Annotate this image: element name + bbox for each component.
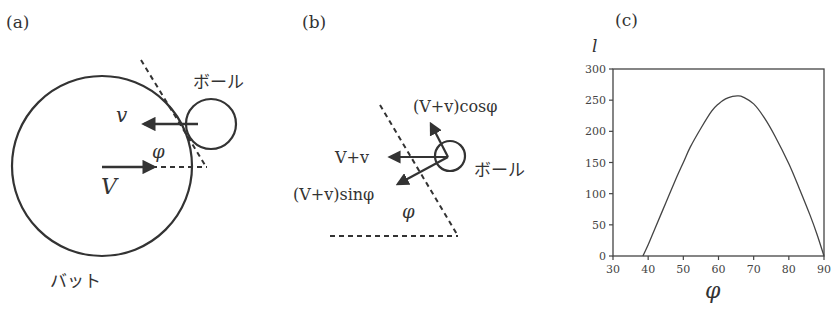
cos-arrow [431, 124, 448, 157]
sin-arrow [398, 157, 448, 184]
panel-b-label: (b) [302, 12, 326, 32]
x-axis-label: φ [705, 278, 721, 303]
panel-a: (a) v φ V ボール バット [6, 12, 244, 291]
panel-c-label: (c) [615, 10, 638, 30]
panel-b: (b) (V+v)cosφ V+v (V+v)sinφ φ ボール [293, 12, 525, 236]
y-ticks: 050100150200250300 [585, 63, 613, 263]
panel-c: (c) l φ 050100150200250300 3040506070809… [585, 10, 831, 303]
panel-a-label: (a) [6, 12, 29, 32]
sum-label: V+v [334, 148, 369, 167]
ball-label-a: ボール [193, 72, 244, 92]
sin-label: (V+v)sinφ [293, 185, 374, 204]
x-tick-label: 60 [712, 263, 726, 276]
y-tick-label: 300 [585, 63, 606, 76]
data-line-l [643, 96, 824, 256]
v-label: v [116, 103, 128, 127]
y-tick-label: 50 [592, 219, 606, 232]
phi-label-b: φ [402, 201, 415, 222]
V-label: V [101, 174, 119, 199]
x-tick-label: 70 [747, 263, 761, 276]
x-tick-label: 80 [782, 263, 796, 276]
y-tick-label: 100 [585, 188, 606, 201]
bat-label: バット [50, 271, 101, 291]
y-tick-label: 250 [585, 94, 606, 107]
cos-label: (V+v)cosφ [413, 97, 498, 116]
x-tick-label: 30 [606, 263, 620, 276]
y-tick-label: 200 [585, 125, 606, 138]
x-tick-label: 50 [676, 263, 690, 276]
phi-label-a: φ [152, 141, 165, 162]
y-axis-label: l [592, 36, 597, 56]
y-tick-label: 0 [599, 250, 606, 263]
ball-label-b: ボール [474, 160, 525, 180]
x-tick-label: 90 [817, 263, 831, 276]
y-tick-label: 150 [585, 157, 606, 170]
x-tick-label: 40 [641, 263, 655, 276]
x-ticks: 30405060708090 [606, 256, 831, 276]
figure-canvas: (a) v φ V ボール バット (b) (V+v)cosφ V+v (V+v… [0, 0, 837, 311]
plot-frame [613, 69, 824, 256]
